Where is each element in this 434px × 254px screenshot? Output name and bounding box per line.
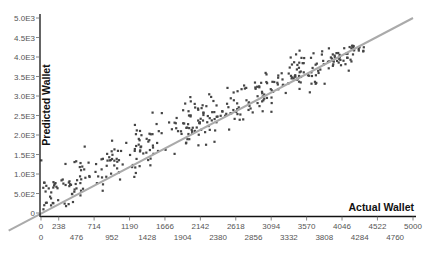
data-point [79,162,81,164]
data-point [152,144,154,146]
data-point [177,130,179,132]
y-tick-label: 0 [31,209,36,218]
data-point [260,82,262,84]
data-point [102,190,104,192]
data-point [116,158,118,160]
data-point [79,194,81,196]
data-point [342,60,344,62]
data-point [80,178,82,180]
data-point [113,164,115,166]
data-point [139,165,141,167]
y-tick-label: 2.0E3 [14,131,35,140]
data-point [64,184,66,186]
data-point [175,127,177,129]
x-tick-label: 238 [52,222,66,231]
data-point [64,163,66,165]
data-point [352,53,354,55]
data-point [232,109,234,111]
data-point [312,52,314,54]
data-point [288,72,290,74]
data-point [105,176,107,178]
x-tick-label: 1190 [121,222,139,231]
data-point [315,82,317,84]
data-point [156,142,158,144]
data-point [308,75,310,77]
x-axis-title: Actual Wallet [348,201,414,213]
data-point [135,158,137,160]
data-point [205,105,207,107]
data-point [204,131,206,133]
data-point [208,93,210,95]
x-tick-label: 2142 [191,222,209,231]
data-point [80,169,82,171]
data-point [200,118,202,120]
data-point [55,186,57,188]
data-point [140,134,142,136]
data-point [101,176,103,178]
x-tick-label: 0 [39,233,44,242]
data-point [136,129,138,131]
x-tick-label: 4760 [386,233,404,242]
data-point [134,150,136,152]
data-point [346,57,348,59]
data-point [117,150,119,152]
data-point [106,165,108,167]
data-point [281,78,283,80]
data-point [173,122,175,124]
data-point [270,96,272,98]
data-point [46,202,48,204]
data-point [43,204,45,206]
data-point [300,57,302,59]
data-point [42,187,44,189]
data-point [135,145,137,147]
data-point [68,185,70,187]
data-point [118,159,120,161]
data-point [134,166,136,168]
x-tick-label: 3808 [315,233,333,242]
data-point [83,168,85,170]
x-tick-label: 2856 [245,233,263,242]
data-point [95,163,97,165]
data-point [261,100,263,102]
data-point [247,109,249,111]
data-point [328,67,330,69]
data-point [215,104,217,106]
data-point [194,106,196,108]
data-point [256,86,258,88]
scatter-chart: 05.0E21.0E31.5E32.0E32.5E33.0E33.5E34.0E… [0,0,434,254]
data-point [148,133,150,135]
data-point [270,111,272,113]
data-point [315,74,317,76]
data-point [252,111,254,113]
data-point [62,178,64,180]
data-point [239,113,241,115]
data-point [111,158,113,160]
data-point [185,142,187,144]
data-point [133,176,135,178]
data-point [298,62,300,64]
data-point [239,119,241,121]
data-point [233,99,235,101]
data-point [108,156,110,158]
data-point [209,117,211,119]
data-point [57,199,59,201]
data-point [296,64,298,66]
data-point [180,130,182,132]
data-point [236,102,238,104]
data-point [106,159,108,161]
data-point [210,96,212,98]
data-point [48,187,50,189]
data-point [316,63,318,65]
data-point [317,70,319,72]
data-point [295,53,297,55]
data-point [138,138,140,140]
reference-line [9,18,413,231]
data-point [226,87,228,89]
data-point [139,149,141,151]
data-point [317,72,319,74]
data-point [71,193,73,195]
data-point [358,49,360,51]
x-tick-label: 0 [39,222,44,231]
data-point [75,183,77,185]
data-point [296,68,298,70]
